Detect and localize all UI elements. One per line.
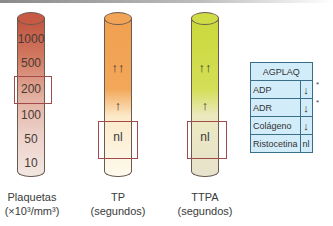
platelet-tube-cap: [17, 12, 45, 25]
table-header-row: AGPLAQ: [251, 63, 313, 81]
ttpa-tube-cap: [191, 12, 219, 25]
scale-value: 100: [17, 108, 45, 122]
asterisk-note: *: [316, 98, 319, 107]
platelet-label-units: (×10³/mm³): [0, 204, 64, 218]
table-title: AGPLAQ: [251, 63, 313, 81]
scale-value: 50: [17, 132, 45, 146]
agonist-name: Colágeno: [251, 117, 301, 135]
platelet-aggregation-table: AGPLAQ ADP ↓ ADR ↓ Colágeno ↓ Ristocetin…: [250, 62, 313, 153]
scale-value: 500: [17, 56, 45, 70]
ttpa-label-units: (segundos): [175, 204, 235, 218]
table-row: Ristocetina nl: [251, 135, 313, 153]
table-row: ADP ↓: [251, 81, 313, 99]
tp-label-title: TP: [88, 190, 148, 204]
asterisk-note: *: [316, 80, 319, 89]
table-row: ADR ↓: [251, 99, 313, 117]
down-arrow-icon: ↓: [300, 81, 312, 99]
ttpa-label: TTPA (segundos): [175, 190, 235, 218]
platelet-label-title: Plaquetas: [0, 190, 64, 204]
double-up-arrow-icon: ↑↑: [191, 60, 219, 75]
agonist-name: ADR: [251, 99, 301, 117]
tp-label: TP (segundos): [88, 190, 148, 218]
table-row: Colágeno ↓: [251, 117, 313, 135]
tp-tube-cap: [104, 12, 132, 25]
tp-label-units: (segundos): [88, 204, 148, 218]
scale-value: 1000: [17, 32, 45, 46]
ttpa-label-title: TTPA: [175, 190, 235, 204]
ttpa-highlight-box: [187, 121, 227, 159]
up-arrow-icon: ↑: [191, 98, 219, 113]
tp-highlight-box: [98, 121, 138, 159]
agonist-name: ADP: [251, 81, 301, 99]
scale-value: 10: [17, 156, 45, 170]
up-arrow-icon: ↑: [104, 98, 132, 113]
platelet-highlight-box: [14, 76, 52, 104]
double-up-arrow-icon: ↑↑: [104, 60, 132, 75]
down-arrow-icon: ↓: [300, 117, 312, 135]
platelet-label: Plaquetas (×10³/mm³): [0, 190, 64, 218]
normal-marker: nl: [300, 135, 312, 153]
down-arrow-icon: ↓: [300, 99, 312, 117]
agonist-name: Ristocetina: [251, 135, 301, 153]
top-divider-line: [0, 0, 333, 3]
